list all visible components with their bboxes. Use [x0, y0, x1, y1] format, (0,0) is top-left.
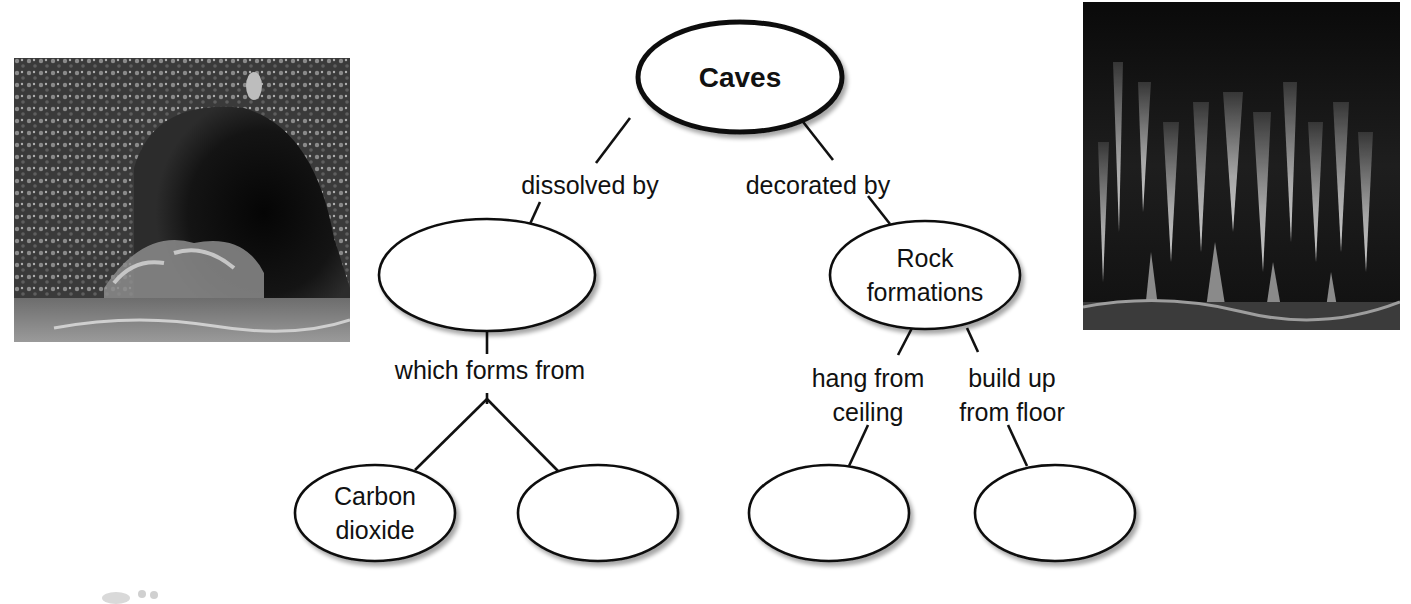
node-ellipse	[749, 465, 909, 561]
node-ellipse	[379, 219, 595, 331]
concept-map: CavesRockformationsCarbondioxide dissolv…	[0, 0, 1411, 604]
link-label-dissolved-by: dissolved by	[521, 171, 659, 199]
faint-logo-icon	[98, 582, 168, 604]
link-label-build-up-from-floor: from floor	[959, 398, 1065, 426]
concept-node-dissolver[interactable]	[379, 219, 595, 331]
connector-line	[1008, 425, 1027, 466]
concept-nodes: CavesRockformationsCarbondioxide	[295, 22, 1135, 561]
link-label-hang-from-ceiling: hang from	[812, 364, 925, 392]
connector-line	[487, 399, 560, 473]
node-label: Rock	[897, 244, 954, 272]
connector-line	[415, 399, 487, 470]
node-ellipse	[975, 465, 1135, 561]
link-label-which-forms-from: which forms from	[394, 356, 585, 384]
connector-line	[967, 328, 978, 352]
connector-line	[800, 118, 833, 160]
node-label: dioxide	[335, 516, 414, 544]
node-ellipse	[830, 221, 1020, 329]
concept-node-hanging-formation[interactable]	[749, 465, 909, 561]
link-label-build-up-from-floor: build up	[968, 364, 1056, 392]
concept-node-rock-formations[interactable]: Rockformations	[830, 221, 1020, 329]
link-label-decorated-by: decorated by	[746, 171, 891, 199]
concept-node-carbon-dioxide[interactable]: Carbondioxide	[295, 465, 455, 561]
link-label-hang-from-ceiling: ceiling	[833, 398, 904, 426]
node-ellipse	[295, 465, 455, 561]
node-ellipse	[518, 465, 678, 561]
concept-node-floor-formation[interactable]	[975, 465, 1135, 561]
node-label: Carbon	[334, 482, 416, 510]
concept-node-second-source[interactable]	[518, 465, 678, 561]
node-label: formations	[867, 278, 984, 306]
connector-line	[898, 328, 912, 355]
connector-line	[849, 425, 868, 466]
node-label: Caves	[699, 62, 782, 93]
connector-line	[530, 202, 540, 224]
concept-node-caves[interactable]: Caves	[638, 22, 842, 132]
concept-map-canvas: CavesRockformationsCarbondioxide dissolv…	[0, 0, 1411, 604]
connector-line	[868, 196, 890, 224]
connector-line	[596, 118, 630, 163]
